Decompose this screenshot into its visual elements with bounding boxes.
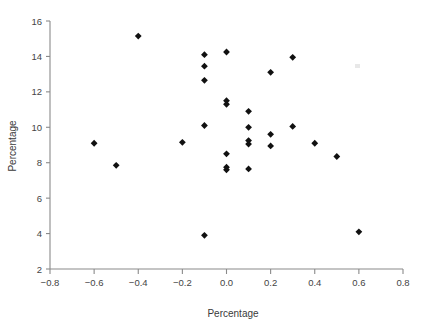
x-tick-label: −0.6 (85, 277, 104, 288)
x-tick-label: −0.8 (41, 277, 60, 288)
data-point (245, 166, 252, 173)
x-axis-title: Percentage (207, 308, 259, 319)
x-tick-label: −0.4 (129, 277, 148, 288)
data-point (289, 123, 296, 130)
x-tick-label: 0.4 (308, 277, 321, 288)
data-point (267, 131, 274, 138)
data-point (201, 77, 208, 84)
data-point (311, 140, 318, 147)
data-point (333, 153, 340, 160)
x-tick-label: 0.2 (264, 277, 277, 288)
data-point-layer (91, 33, 363, 239)
data-point (245, 141, 252, 148)
data-point (91, 140, 98, 147)
data-point (355, 228, 362, 235)
y-tick-label: 12 (31, 86, 42, 97)
y-tick-label: 16 (31, 16, 42, 27)
y-tick-label: 8 (37, 157, 42, 168)
y-tick-label: 14 (31, 51, 42, 62)
data-point (223, 49, 230, 56)
y-axis: 246810121416 (31, 16, 50, 275)
y-axis-title: Percentage (7, 120, 18, 172)
y-tick-label: 2 (37, 264, 42, 275)
x-tick-label: 0.6 (352, 277, 365, 288)
y-tick-label: 10 (31, 122, 42, 133)
data-point (201, 51, 208, 58)
x-axis: −0.8−0.6−0.4−0.20.00.20.40.60.8 (41, 269, 410, 288)
data-point (267, 69, 274, 76)
data-point (223, 150, 230, 157)
data-point (113, 162, 120, 169)
data-point (179, 139, 186, 146)
data-point (223, 101, 230, 108)
data-point (267, 142, 274, 149)
data-point (245, 108, 252, 115)
scan-artifact (355, 64, 360, 68)
x-tick-label: 0.0 (220, 277, 233, 288)
data-point (289, 54, 296, 61)
x-tick-label: −0.2 (173, 277, 192, 288)
data-point (135, 33, 142, 40)
data-point (201, 122, 208, 129)
data-point (201, 232, 208, 239)
y-tick-label: 4 (37, 228, 42, 239)
x-tick-label: 0.8 (396, 277, 409, 288)
y-tick-label: 6 (37, 193, 42, 204)
scatter-plot-figure: 246810121416 −0.8−0.6−0.4−0.20.00.20.40.… (0, 0, 429, 334)
data-point (245, 124, 252, 131)
plot-canvas: 246810121416 −0.8−0.6−0.4−0.20.00.20.40.… (0, 0, 429, 334)
data-point (201, 63, 208, 70)
